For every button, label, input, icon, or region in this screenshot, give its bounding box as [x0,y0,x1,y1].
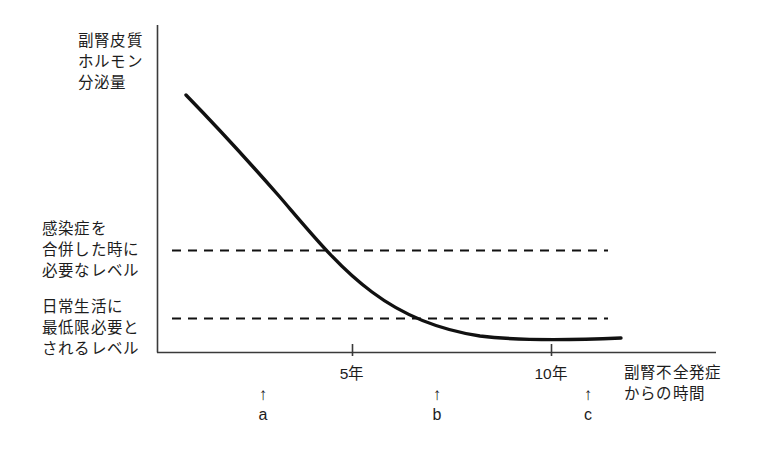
up-arrow-icon: ↑ [422,386,452,404]
annotation-marker-c: ↑ c [573,386,603,425]
chart-figure: 副腎皮質 ホルモン 分泌量 感染症を 合併した時に 必要なレベル 日常生活に 最… [0,0,773,455]
annotation-marker-b: ↑ b [422,386,452,425]
annotation-marker-a: ↑ a [248,386,278,425]
annotation-label-c: c [573,405,603,425]
up-arrow-icon: ↑ [573,386,603,404]
annotation-label-a: a [248,405,278,425]
threshold-label-daily-life: 日常生活に 最低限必要と されるレベル [42,296,139,359]
x-tick-label-10y: 10年 [534,364,567,383]
y-axis-title: 副腎皮質 ホルモン 分泌量 [78,30,143,93]
threshold-label-infection: 感染症を 合併した時に 必要なレベル [42,218,139,281]
up-arrow-icon: ↑ [248,386,278,404]
hormone-decay-curve [186,95,621,340]
annotation-label-b: b [422,405,452,425]
x-tick-label-5y: 5年 [340,364,365,383]
x-axis-title: 副腎不全発症 からの時間 [624,362,721,404]
